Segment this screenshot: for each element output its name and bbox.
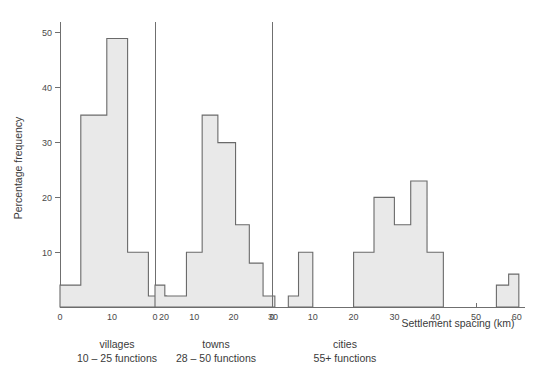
x-tick-label: 60	[512, 312, 522, 322]
y-axis-label: Percentage frequency	[12, 116, 24, 219]
caption-line1-towns: towns	[202, 338, 229, 350]
panel-cities: 0102030405060	[269, 22, 524, 322]
caption-cities: cities55+ functions	[314, 338, 377, 364]
x-tick-label: 20	[349, 312, 359, 322]
y-tick-label: 30	[42, 138, 52, 148]
plot-layer: 10203040500102001020300102030405060	[42, 22, 525, 322]
caption-line2-villages: 10 – 25 functions	[77, 352, 157, 364]
y-tick-label: 40	[42, 83, 52, 93]
x-tick-label: 20	[159, 312, 169, 322]
histogram-bars-towns	[155, 115, 275, 307]
x-tick-label: 10	[308, 312, 318, 322]
caption-line1-cities: cities	[333, 338, 357, 350]
x-tick-label: 50	[471, 312, 481, 322]
x-tick-label: 20	[229, 312, 239, 322]
caption-line1-villages: villages	[99, 338, 134, 350]
y-tick-label: 10	[42, 248, 52, 258]
caption-line2-towns: 28 – 50 functions	[176, 352, 256, 364]
x-tick-label: 30	[389, 312, 399, 322]
x-axis-label: Settlement spacing (km)	[401, 317, 514, 329]
histogram-figure: Percentage frequency Settlement spacing …	[0, 0, 536, 389]
panel-captions: villages10 – 25 functionstowns28 – 50 fu…	[77, 338, 376, 364]
y-tick-label: 20	[42, 193, 52, 203]
histogram-bars-cities	[288, 181, 519, 307]
y-tick-label: 50	[42, 28, 52, 38]
figure-container: Percentage frequency Settlement spacing …	[0, 0, 536, 389]
caption-villages: villages10 – 25 functions	[77, 338, 157, 364]
x-tick-label: 0	[57, 312, 62, 322]
histogram-bars-villages	[60, 38, 167, 307]
x-tick-label: 10	[107, 312, 117, 322]
panel-towns: 0102030	[152, 22, 277, 322]
x-tick-label: 40	[430, 312, 440, 322]
x-tick-label: 0	[269, 312, 274, 322]
x-tick-label: 10	[189, 312, 199, 322]
caption-towns: towns28 – 50 functions	[176, 338, 256, 364]
x-tick-label: 0	[152, 312, 157, 322]
panel-villages: 102030405001020	[42, 22, 169, 322]
caption-line2-cities: 55+ functions	[314, 352, 377, 364]
